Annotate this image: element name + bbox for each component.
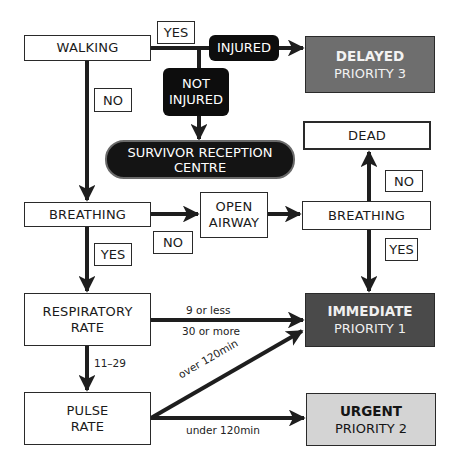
open-airway-line2: AIRWAY <box>209 215 259 231</box>
respiratory-rate-node: RESPIRATORY RATE <box>24 293 151 346</box>
walking-label: WALKING <box>57 40 119 56</box>
dead-label: DEAD <box>348 128 386 144</box>
walking-node: WALKING <box>24 35 151 61</box>
resp-normal-label: 11–29 <box>94 357 126 369</box>
injured-node: INJURED <box>209 35 279 61</box>
delayed-priority-3-node: DELAYED PRIORITY 3 <box>305 36 435 93</box>
walking-yes-label: YES <box>157 21 195 44</box>
pulse-line1: PULSE <box>66 403 108 419</box>
breathing-2-yes-label: YES <box>385 238 418 261</box>
urgent-priority-2-node: URGENT PRIORITY 2 <box>306 393 436 446</box>
breathing-1-yes-label: YES <box>94 243 132 266</box>
respiratory-line1: RESPIRATORY <box>42 304 132 320</box>
urgent-title: URGENT <box>340 403 402 420</box>
immediate-priority-1-node: IMMEDIATE PRIORITY 1 <box>305 293 435 347</box>
not-injured-line1: NOT <box>182 76 210 92</box>
breathing-1-no-label: NO <box>153 231 193 254</box>
no-text: NO <box>394 174 414 189</box>
survivor-line1: SURVIVOR RECEPTION <box>128 145 273 160</box>
survivor-line2: CENTRE <box>174 160 226 175</box>
yes-text: YES <box>164 25 188 40</box>
walking-no-label: NO <box>94 88 132 112</box>
pulse-rate-node: PULSE RATE <box>24 392 151 445</box>
delayed-subtitle: PRIORITY 3 <box>334 65 406 82</box>
survivor-reception-centre-node: SURVIVOR RECEPTION CENTRE <box>105 140 295 179</box>
not-injured-line2: INJURED <box>169 92 223 108</box>
open-airway-node: OPEN AIRWAY <box>200 192 268 238</box>
injured-label: INJURED <box>217 40 271 56</box>
not-injured-node: NOT INJURED <box>163 68 229 116</box>
breathing-2-label: BREATHING <box>328 208 405 224</box>
respiratory-line2: RATE <box>71 320 104 336</box>
breathing-after-airway-node: BREATHING <box>302 201 431 230</box>
yes-text: YES <box>101 247 125 262</box>
resp-low-label: 9 or less <box>186 304 230 316</box>
pulse-line2: RATE <box>71 419 104 435</box>
breathing-label: BREATHING <box>49 207 126 223</box>
no-text: NO <box>103 93 123 108</box>
immediate-title: IMMEDIATE <box>327 303 412 320</box>
immediate-subtitle: PRIORITY 1 <box>334 320 406 337</box>
breathing-node: BREATHING <box>24 202 151 227</box>
open-airway-line1: OPEN <box>216 199 253 215</box>
delayed-title: DELAYED <box>336 48 404 65</box>
breathing-2-no-label: NO <box>385 170 423 192</box>
dead-node: DEAD <box>303 121 431 150</box>
no-text: NO <box>163 235 183 250</box>
yes-text: YES <box>389 242 413 257</box>
pulse-under-label: under 120min <box>186 424 260 436</box>
resp-high-label: 30 or more <box>182 325 240 337</box>
urgent-subtitle: PRIORITY 2 <box>335 420 407 437</box>
